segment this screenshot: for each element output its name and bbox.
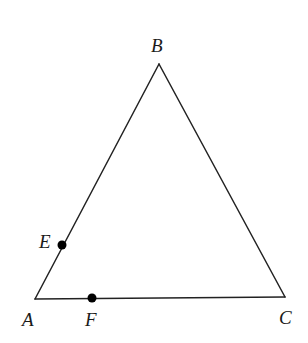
triangle-segments	[35, 64, 285, 299]
vertex-label-c: C	[279, 308, 292, 327]
point-marker-f	[88, 294, 97, 303]
point-label-e: E	[39, 232, 51, 251]
geometry-figure: A B C E F	[0, 0, 308, 343]
segment-ab	[35, 64, 159, 299]
segment-bc	[159, 64, 285, 297]
vertex-label-a: A	[22, 310, 34, 329]
segment-ac	[35, 297, 285, 299]
point-label-f: F	[85, 310, 97, 329]
vertex-label-b: B	[151, 36, 163, 55]
marked-points	[58, 241, 97, 303]
point-marker-e	[58, 241, 67, 250]
